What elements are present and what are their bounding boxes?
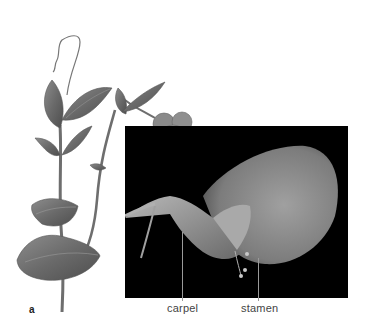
figure: carpel stamen a [0, 0, 367, 331]
carpel-label: carpel [167, 302, 198, 314]
panel-letter: a [29, 304, 35, 315]
pea-flower-dissection-photo [125, 126, 348, 298]
stamen-label: stamen [241, 302, 278, 314]
carpel-callout-line [182, 232, 183, 301]
stamen-callout-line [258, 258, 259, 301]
tendril [53, 36, 80, 95]
